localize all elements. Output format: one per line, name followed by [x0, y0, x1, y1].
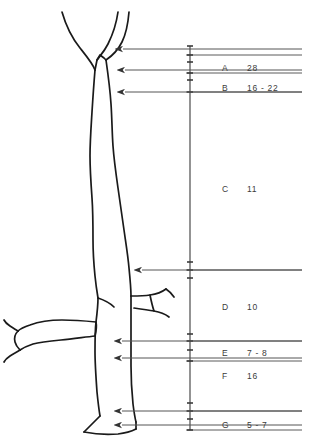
row-label-e: E	[222, 349, 228, 358]
row-label-c: C	[222, 185, 229, 194]
vertical-dimension-line	[187, 46, 193, 430]
row-value-b: 16 - 22	[247, 84, 278, 93]
diagram-canvas	[0, 0, 315, 442]
right-branch-lower	[134, 308, 169, 317]
right-branch-upper-tip	[166, 289, 174, 297]
tube-left-wall	[90, 70, 98, 298]
row-label-a: A	[222, 64, 228, 73]
table-rules	[186, 55, 302, 430]
left-branch-upper-edge	[18, 320, 96, 331]
left-branch-fork-notch	[15, 331, 20, 350]
left-branch-fork-upper	[4, 320, 18, 331]
row-value-a: 28	[247, 64, 258, 73]
lower-shaft-left-wall	[95, 298, 100, 416]
row-value-c: 11	[247, 185, 257, 194]
row-value-f: 16	[247, 372, 258, 381]
row-label-b: B	[222, 84, 228, 93]
row-value-d: 10	[247, 303, 258, 312]
base-bottom-edge	[84, 429, 136, 434]
row-value-e: 7 - 8	[247, 349, 268, 358]
superior-notch	[95, 55, 106, 70]
left-junction-spur	[98, 298, 114, 307]
leader-arrows	[122, 49, 302, 425]
anatomy-outline	[4, 12, 174, 434]
row-label-g: G	[222, 421, 229, 430]
right-branch-upper	[131, 289, 166, 296]
tube-right-wall	[106, 60, 131, 296]
row-label-d: D	[222, 303, 229, 312]
row-value-g: 5 - 7	[247, 421, 268, 430]
anatomical-measurement-diagram: A 28 B 16 - 22 C 11 D 10 E 7 - 8 F 16 G …	[0, 0, 315, 442]
row-label-f: F	[222, 372, 228, 381]
right-branch-connector	[150, 295, 154, 311]
left-superior-horn	[62, 12, 95, 70]
left-branch-fork-lower	[4, 350, 20, 362]
base-left-flare	[84, 416, 100, 432]
left-branch-lower-edge	[20, 336, 95, 350]
lower-shaft-right-wall	[131, 296, 136, 422]
